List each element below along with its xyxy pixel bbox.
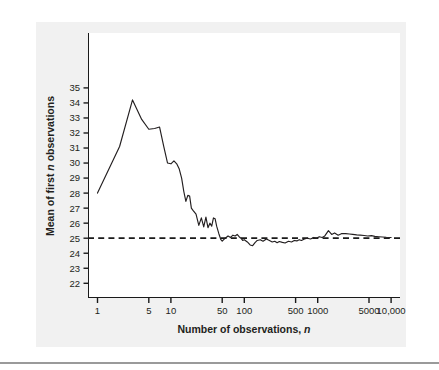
y-tick-label: 32 [69,127,80,138]
x-axis-tick-labels: 1510501005001000500010,000 [95,305,406,316]
y-tick-label: 33 [69,112,80,123]
x-tick-label: 50 [217,305,228,316]
y-tick-label: 30 [69,157,80,168]
x-axis-title: Number of observations, n [177,323,310,335]
y-tick-label: 29 [69,172,80,183]
x-tick-label: 100 [236,305,252,316]
x-tick-label: 500 [288,305,304,316]
y-tick-label: 27 [69,203,80,214]
y-tick-label: 23 [69,263,80,274]
running-mean-series [98,100,392,246]
y-tick-label: 28 [69,188,80,199]
y-tick-label: 35 [69,82,80,93]
x-axis-ticks [98,298,392,303]
y-tick-label: 34 [69,97,80,108]
x-tick-label: 10,000 [377,305,406,316]
running-mean-line-chart: 2223242526272829303132333435 15105010050… [0,0,439,370]
y-axis-ticks [84,88,89,283]
x-tick-label: 5 [146,305,151,316]
x-tick-label: 1000 [307,305,328,316]
y-axis-tick-labels: 2223242526272829303132333435 [69,82,80,288]
y-tick-label: 25 [69,233,80,244]
x-tick-label: 1 [95,305,100,316]
y-tick-label: 22 [69,278,80,289]
y-tick-label: 31 [69,142,80,153]
x-tick-label: 10 [166,305,177,316]
y-tick-label: 24 [69,248,80,259]
y-tick-label: 26 [69,218,80,229]
y-axis-title: Mean of first n observations [44,96,56,236]
bottom-divider [0,362,439,364]
